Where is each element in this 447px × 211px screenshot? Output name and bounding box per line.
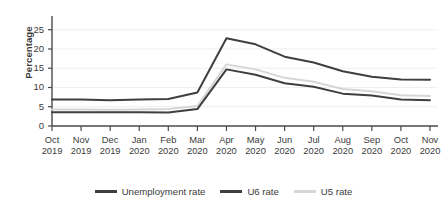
y-tick-label: 5 [18,102,44,112]
legend-swatch-icon [95,190,117,193]
x-tick-year: 2020 [410,146,447,157]
x-tick-month: Nov [410,135,447,146]
legend-item-unemployment-rate[interactable]: Unemployment rate [95,186,206,197]
plot-area [0,0,447,211]
y-tick-label: 15 [18,63,44,73]
y-tick-label: 0 [18,121,44,131]
legend-label: Unemployment rate [122,186,206,197]
legend-swatch-icon [294,190,316,193]
y-tick-label: 20 [18,44,44,54]
legend-label: U6 rate [247,186,278,197]
y-tick-label: 25 [18,25,44,35]
legend-swatch-icon [220,190,242,193]
legend-item-u6-rate[interactable]: U6 rate [220,186,278,197]
line-chart: Percentage 0510152025 Oct2019Nov2019Dec2… [0,0,447,211]
x-tick-label: Nov2020 [410,135,447,157]
legend-label: U5 rate [321,186,352,197]
chart-legend: Unemployment rateU6 rateU5 rate [0,186,447,197]
legend-item-u5-rate[interactable]: U5 rate [294,186,352,197]
y-tick-label: 10 [18,82,44,92]
